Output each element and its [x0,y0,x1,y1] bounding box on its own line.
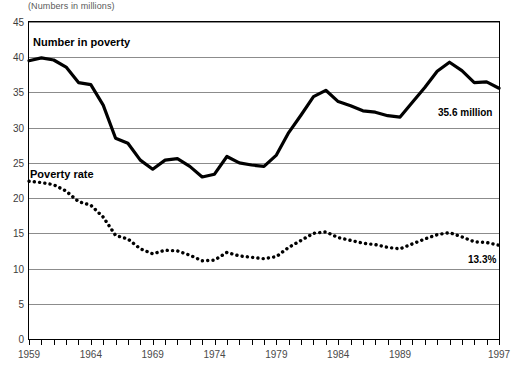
series-label-number-in-poverty: Number in poverty [33,36,130,48]
x-axis-tick-labels: 19591964196919741979198419891997 [18,349,511,360]
chart-canvas: 051015202530354045 195919641969197419791… [0,0,512,368]
y-axis-tick-label: 25 [13,158,25,169]
y-axis-tick-label: 30 [13,123,25,134]
x-axis-tick-label: 1974 [203,349,226,360]
x-axis-tick-label: 1984 [327,349,350,360]
callout-number-in-poverty: 35.6 million [438,107,492,118]
y-axis-tick-label: 45 [13,17,25,28]
y-axis-tick-label: 35 [13,87,25,98]
x-axis-tick-label: 1989 [389,349,412,360]
y-axis-tick-labels: 051015202530354045 [13,17,25,345]
x-axis-tick-label: 1959 [18,349,41,360]
x-axis-tick-label: 1979 [265,349,288,360]
y-axis-tick-label: 40 [13,52,25,63]
x-axis-tick-label: 1964 [80,349,103,360]
poverty-chart: (Numbers in millions) 051015202530354045… [0,0,512,368]
y-axis-tick-label: 15 [13,228,25,239]
y-axis-tick-label: 20 [13,193,25,204]
y-axis-tick-label: 10 [13,264,25,275]
x-axis-tick-label: 1969 [142,349,165,360]
series-line-number-in-poverty [29,58,499,177]
series-label-poverty-rate: Poverty rate [30,168,94,180]
x-axis-tick-label: 1997 [488,349,511,360]
plot-border [29,22,500,340]
callout-poverty-rate: 13.3% [468,254,496,265]
y-axis-tick-label: 0 [18,334,24,345]
y-axis-tick-label: 5 [18,299,24,310]
series-line-poverty-rate [29,181,499,261]
gridlines [29,23,499,305]
